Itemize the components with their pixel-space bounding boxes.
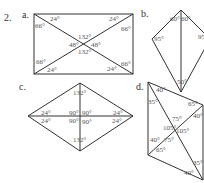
figure-c: c. 132° 24° 90° 90° 24° 24° 90° 90° 24° … xyxy=(19,81,133,151)
angle-label: 105° xyxy=(176,127,190,135)
angle-label: 132° xyxy=(73,136,87,144)
angle-label: 24° xyxy=(109,15,119,23)
angle-label: 105° xyxy=(163,124,177,132)
figure-b: b. 60° 60° 95° 95° 50° xyxy=(141,8,204,92)
angle-label: 95° xyxy=(154,35,164,43)
geometry-figures: 2. a. 24° 24° 66° 66° 132° 48° 48° 132° … xyxy=(0,0,204,183)
angle-label: 24° xyxy=(47,66,57,74)
angle-label: 35° xyxy=(148,98,158,106)
angle-label: 35° xyxy=(193,159,203,167)
angle-label: 95° xyxy=(198,33,204,41)
angle-label: 60° xyxy=(181,15,191,23)
angle-label: 75° xyxy=(164,136,174,144)
angle-label: 90° xyxy=(82,109,92,117)
angle-label: 65° xyxy=(156,146,166,154)
angle-label: 66° xyxy=(121,60,131,68)
angle-label: 90° xyxy=(69,117,79,125)
angle-label: 132° xyxy=(78,33,92,41)
figure-c-label: c. xyxy=(19,81,26,92)
angle-label: 24° xyxy=(41,109,51,117)
angle-label: 40° xyxy=(193,112,203,120)
angle-label: 48° xyxy=(91,41,101,49)
angle-label: 65° xyxy=(188,100,198,108)
angle-label: 132° xyxy=(78,48,92,56)
angle-label: 66° xyxy=(121,25,131,33)
angle-label: 66° xyxy=(36,58,46,66)
angle-label: 24° xyxy=(50,15,60,23)
angle-label: 50° xyxy=(177,78,187,86)
angle-label: 66° xyxy=(35,22,45,30)
angle-label: 40° xyxy=(150,136,160,144)
angle-label: 40° xyxy=(156,86,166,94)
angle-label: 24° xyxy=(113,109,123,117)
angle-label: 90° xyxy=(69,109,79,117)
figure-a: a. 24° 24° 66° 66° 132° 48° 48° 132° 66°… xyxy=(22,9,133,74)
angle-label: 24° xyxy=(107,65,117,73)
figure-d: d. 40° 35° 65° 75° 40° 105° 105° 40° 75°… xyxy=(136,81,203,180)
angle-label: 24° xyxy=(112,117,122,125)
angle-label: 132° xyxy=(73,89,87,97)
figure-a-label: a. xyxy=(22,9,29,20)
figure-d-label: d. xyxy=(136,81,144,92)
problem-number: 2. xyxy=(4,12,12,23)
angle-label: 75° xyxy=(172,115,182,123)
angle-label: 40° xyxy=(184,169,194,177)
angle-label: 24° xyxy=(41,117,51,125)
angle-label: 60° xyxy=(170,15,180,23)
figure-b-label: b. xyxy=(141,8,149,19)
angle-label: 90° xyxy=(82,118,92,126)
